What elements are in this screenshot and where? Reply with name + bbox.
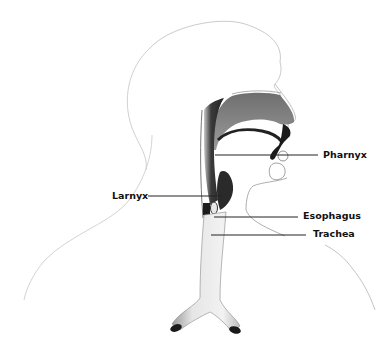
label-esophagus: Esophagus <box>303 211 361 221</box>
head-outline <box>150 21 281 96</box>
palate <box>218 130 282 142</box>
upper-lip-highlight <box>278 151 288 161</box>
left-shoulder-outline <box>24 135 152 300</box>
head-back-outline <box>127 48 150 170</box>
anatomy-diagram <box>0 0 392 356</box>
pharynx-back-wall <box>201 110 203 218</box>
label-trachea: Trachea <box>313 229 355 239</box>
chin <box>269 163 285 180</box>
larynx-cartilage <box>211 202 218 214</box>
larynx-vocal-cord <box>203 203 210 215</box>
label-pharynx: Pharnyx <box>323 150 367 160</box>
label-larynx: Larnyx <box>112 191 148 201</box>
right-shoulder-outline <box>325 245 375 310</box>
neck-front-outline <box>246 178 287 236</box>
epiglottis <box>217 171 233 210</box>
trachea <box>172 212 240 332</box>
